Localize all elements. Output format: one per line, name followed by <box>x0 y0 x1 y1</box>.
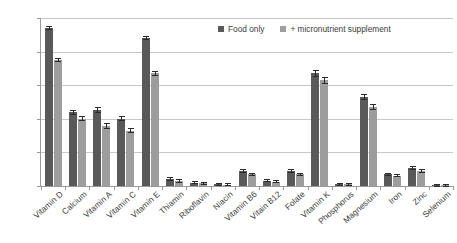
error-bar-cap <box>419 172 425 173</box>
error-bar <box>73 110 74 115</box>
error-bar <box>121 116 122 121</box>
error-bar <box>373 104 374 110</box>
error-bar-cap <box>55 58 61 59</box>
error-bar-cap <box>119 120 125 121</box>
bar <box>311 73 319 186</box>
error-bar <box>291 169 292 173</box>
error-bar <box>348 183 349 186</box>
error-bar-cap <box>70 114 76 115</box>
x-axis-label-text: Iron <box>387 189 404 206</box>
error-bar <box>58 58 59 62</box>
error-bar-cap <box>55 61 61 62</box>
error-bar <box>130 128 131 133</box>
error-bar <box>82 116 83 121</box>
error-bar-cap <box>361 94 367 95</box>
error-bar <box>97 107 98 113</box>
error-bar <box>146 36 147 40</box>
x-axis-label-text: Vitamin D <box>31 189 64 220</box>
error-bar-cap <box>370 104 376 105</box>
error-bar-cap <box>70 110 76 111</box>
bar-group <box>335 18 352 186</box>
error-bar <box>445 184 446 187</box>
error-bar-cap <box>143 36 149 37</box>
error-bar-cap <box>104 128 110 129</box>
error-bar <box>412 166 413 170</box>
error-bar-cap <box>249 175 255 176</box>
error-bar-cap <box>152 71 158 72</box>
y-axis-tick-mark <box>37 52 41 53</box>
error-bar-cap <box>119 116 125 117</box>
bar <box>45 28 53 186</box>
bar <box>54 60 62 186</box>
error-bar-cap <box>322 77 328 78</box>
error-bar-cap <box>313 76 319 77</box>
bar <box>417 171 425 186</box>
error-bar-cap <box>361 99 367 100</box>
bar-group <box>93 18 110 186</box>
error-bar <box>315 70 316 77</box>
error-bar-cap <box>79 116 85 117</box>
error-bar-cap <box>46 26 52 27</box>
error-bar <box>364 94 365 100</box>
error-bar <box>252 173 253 176</box>
plot-area: 0%20%40%60%80%100% <box>40 18 453 187</box>
error-bar <box>203 182 204 185</box>
error-bar-cap <box>128 128 134 129</box>
bar-chart: Food only + micronutrient supplement 0%2… <box>0 0 457 243</box>
error-bar <box>243 169 244 173</box>
x-axis-label-text: Zinc <box>410 189 428 207</box>
error-bar-cap <box>104 123 110 124</box>
bar-group <box>263 18 280 186</box>
bar-group <box>69 18 86 186</box>
error-bar <box>324 77 325 84</box>
x-axis-labels: Vitamin DCalciumVitamin AVitamin CVitami… <box>40 189 452 243</box>
error-bar-cap <box>443 184 449 185</box>
bar-group <box>287 18 304 186</box>
bar-group <box>45 18 62 186</box>
bar-group <box>142 18 159 186</box>
error-bar-cap <box>152 75 158 76</box>
error-bar <box>155 71 156 76</box>
error-bar-cap <box>46 29 52 30</box>
error-bar-cap <box>225 183 231 184</box>
bar <box>320 80 328 186</box>
error-bar-cap <box>95 112 101 113</box>
y-axis-tick-mark <box>37 18 41 19</box>
error-bar-cap <box>322 83 328 84</box>
error-bar-cap <box>143 39 149 40</box>
error-bar <box>106 123 107 129</box>
bar-group <box>360 18 377 186</box>
error-bar <box>49 26 50 30</box>
bar-group <box>239 18 256 186</box>
error-bar-cap <box>370 109 376 110</box>
error-bar-cap <box>288 169 294 170</box>
error-bar <box>227 183 228 186</box>
bar-group <box>408 18 425 186</box>
error-bar-cap <box>410 169 416 170</box>
bar-group <box>166 18 183 186</box>
error-bar-cap <box>128 132 134 133</box>
error-bar-cap <box>419 169 425 170</box>
error-bar-cap <box>313 70 319 71</box>
bar-group <box>384 18 401 186</box>
bar <box>142 38 150 186</box>
error-bar <box>421 169 422 173</box>
error-bar-cap <box>240 169 246 170</box>
y-axis-tick-mark <box>37 152 41 153</box>
y-axis-tick-mark <box>37 119 41 120</box>
bar-group <box>190 18 207 186</box>
bar-group <box>117 18 134 186</box>
error-bar-cap <box>95 107 101 108</box>
error-bar-cap <box>79 120 85 121</box>
bar-group <box>432 18 449 186</box>
bar-group <box>214 18 231 186</box>
error-bar-cap <box>201 184 207 185</box>
error-bar-cap <box>249 173 255 174</box>
y-axis-tick-mark <box>37 85 41 86</box>
bar-group <box>311 18 328 186</box>
